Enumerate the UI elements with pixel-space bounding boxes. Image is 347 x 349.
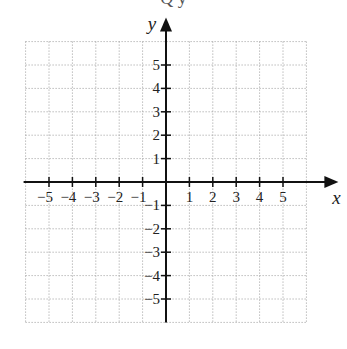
y-tick-label: −3: [144, 244, 160, 260]
x-tick-label: 4: [256, 189, 264, 205]
x-tick-label: 1: [186, 189, 194, 205]
y-axis-label: y: [146, 13, 157, 34]
y-axis-arrow-icon: [160, 18, 172, 32]
x-tick-label: 2: [209, 189, 217, 205]
y-tick-label: −5: [144, 291, 160, 307]
y-tick-label: 4: [153, 80, 161, 96]
y-tick-label: −1: [144, 197, 160, 213]
coordinate-plane: −5−4−3−2−112345−5−4−3−2−112345xy: [0, 0, 347, 349]
y-tick-label: 3: [153, 104, 161, 120]
y-tick-label: −2: [144, 221, 160, 237]
y-tick-label: 1: [153, 151, 161, 167]
x-tick-label: 3: [232, 189, 240, 205]
x-tick-label: 5: [279, 189, 287, 205]
x-tick-label: −3: [84, 189, 100, 205]
y-tick-label: 5: [153, 57, 161, 73]
x-tick-label: −4: [60, 189, 76, 205]
x-tick-label: −2: [107, 189, 123, 205]
x-axis-label: x: [331, 187, 341, 208]
x-tick-label: −5: [37, 189, 53, 205]
y-tick-label: −4: [144, 268, 160, 284]
y-tick-label: 2: [153, 127, 161, 143]
